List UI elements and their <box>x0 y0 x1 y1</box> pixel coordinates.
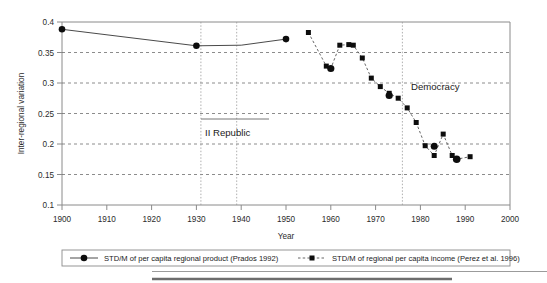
ytick-label-0.1: 0.1 <box>43 201 55 210</box>
ytick-label-0.25: 0.25 <box>38 110 54 119</box>
xtick-label-1900: 1900 <box>53 215 72 224</box>
data-point-1930 <box>193 43 200 50</box>
xtick-label-2000: 2000 <box>501 215 520 224</box>
chart-legend: STD/M of per capita regional product (Pr… <box>62 250 520 266</box>
data-point-1971 <box>378 84 383 89</box>
y-axis-title: Inter-regional variation <box>17 72 26 154</box>
ii-republic-label: II Republic <box>205 127 251 138</box>
data-point-1900 <box>59 26 66 33</box>
ytick-label-0.15: 0.15 <box>38 171 54 180</box>
ytick-label-0.3: 0.3 <box>43 79 55 88</box>
data-point-1965 <box>351 43 356 48</box>
canvas-background <box>0 0 547 283</box>
legend-label-perez: STD/M of regional per capita income (Per… <box>332 254 520 263</box>
data-point-1955 <box>306 30 311 35</box>
data-point-1964 <box>346 42 351 47</box>
democracy-label: Democracy <box>411 81 460 92</box>
data-point-1979 <box>414 120 419 125</box>
data-point-1991 <box>468 154 473 159</box>
data-point-1983 <box>432 153 437 158</box>
data-point-1960 <box>327 65 334 72</box>
data-point-1950 <box>283 36 290 43</box>
x-axis-title: Year <box>278 232 295 241</box>
legend-label-prados: STD/M of per capita regional product (Pr… <box>104 254 279 263</box>
data-point-1985 <box>441 132 446 137</box>
chart-figure: 0.4 0.35 0.3 0.25 0.2 0.15 0.1 1900 1910… <box>0 0 547 283</box>
data-point-1981 <box>423 143 428 148</box>
data-point-1973b <box>386 92 393 99</box>
legend-marker-square <box>310 256 315 261</box>
ytick-label-0.4: 0.4 <box>43 18 55 27</box>
xtick-label-1940: 1940 <box>232 215 251 224</box>
legend-entry-perez[interactable]: STD/M of regional per capita income (Per… <box>298 254 520 263</box>
data-point-1969 <box>369 76 374 81</box>
xtick-label-1950: 1950 <box>277 215 296 224</box>
xtick-label-1930: 1930 <box>187 215 206 224</box>
data-point-1975 <box>396 96 401 101</box>
ytick-label-0.35: 0.35 <box>38 49 54 58</box>
data-point-1977 <box>405 105 410 110</box>
xtick-label-1960: 1960 <box>322 215 341 224</box>
xtick-label-1980: 1980 <box>411 215 430 224</box>
data-point-1962 <box>337 43 342 48</box>
data-point-1967 <box>360 56 365 61</box>
data-point-1988 <box>453 155 461 163</box>
xtick-label-1990: 1990 <box>456 215 475 224</box>
xtick-label-1970: 1970 <box>366 215 385 224</box>
chart-svg: 0.4 0.35 0.3 0.25 0.2 0.15 0.1 1900 1910… <box>0 0 547 283</box>
legend-marker-circle <box>81 255 88 262</box>
xtick-label-1910: 1910 <box>98 215 117 224</box>
data-point-1982 <box>431 143 438 150</box>
xtick-label-1920: 1920 <box>142 215 161 224</box>
ytick-label-0.2: 0.2 <box>43 140 55 149</box>
